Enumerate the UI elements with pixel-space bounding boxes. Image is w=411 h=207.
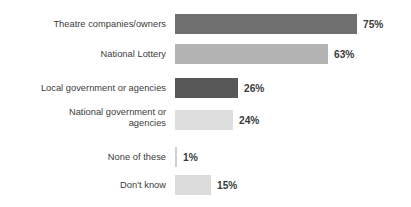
bar-row: National Lottery 63% — [0, 44, 411, 64]
category-label: None of these — [0, 152, 166, 163]
bar-fill — [175, 110, 233, 130]
bar-track: 26% — [175, 78, 264, 98]
bar-track: 75% — [175, 14, 383, 34]
bar-value-label: 1% — [183, 152, 198, 163]
bar-value-label: 15% — [217, 180, 237, 191]
bar-row: Theatre companies/owners 75% — [0, 14, 411, 34]
bar-chart: Theatre companies/owners 75% National Lo… — [0, 0, 411, 207]
bar-fill — [175, 175, 211, 195]
bar-track: 63% — [175, 44, 354, 64]
bar-value-label: 24% — [239, 115, 259, 126]
bar-value-label: 63% — [334, 49, 354, 60]
bar-track: 15% — [175, 175, 237, 195]
bar-track: 24% — [175, 110, 259, 130]
category-label: Theatre companies/owners — [0, 19, 166, 30]
bar-row: National government or agencies 24% — [0, 110, 411, 130]
bar-fill — [175, 147, 177, 167]
category-label: National Lottery — [0, 49, 166, 60]
bar-row: Local government or agencies 26% — [0, 78, 411, 98]
bar-fill — [175, 44, 328, 64]
category-label: National government or agencies — [0, 107, 166, 129]
category-label: Don't know — [0, 180, 166, 191]
bar-row: Don't know 15% — [0, 175, 411, 195]
category-label: Local government or agencies — [0, 83, 166, 94]
bar-fill — [175, 14, 357, 34]
bar-track: 1% — [175, 147, 198, 167]
bar-fill — [175, 78, 238, 98]
bar-value-label: 26% — [244, 83, 264, 94]
bar-value-label: 75% — [363, 19, 383, 30]
bar-row: None of these 1% — [0, 147, 411, 167]
